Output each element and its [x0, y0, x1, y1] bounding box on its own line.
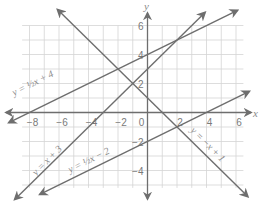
lines — [9, 10, 249, 200]
coordinate-plane-chart: −8−6−4−20246642−2−4 y = ½x + 4 y = x + 3… — [0, 0, 261, 203]
line-y-x-1 — [58, 10, 248, 197]
x-tick-label: −8 — [27, 117, 39, 128]
x-tick-label: −6 — [56, 117, 68, 128]
y-tick-label: 2 — [138, 79, 144, 90]
x-tick-label: −2 — [115, 117, 127, 128]
x-tick-label: 0 — [139, 117, 145, 128]
y-axis-label: y — [143, 0, 149, 12]
equation-label-half-x-plus-4: y = ½x + 4 — [9, 68, 55, 98]
line-y-1-2-x-2 — [40, 91, 249, 194]
x-axis-label: x — [252, 107, 258, 119]
x-tick-label: −4 — [86, 117, 98, 128]
x-tick-label: 6 — [236, 117, 242, 128]
chart-svg: −8−6−4−20246642−2−4 y = ½x + 4 y = x + 3… — [0, 0, 261, 203]
y-tick-label: 6 — [138, 21, 144, 32]
line-y-1-2-x-4 — [9, 10, 238, 122]
x-tick-label: 4 — [207, 117, 213, 128]
grid — [22, 26, 243, 188]
y-tick-label: −4 — [132, 166, 144, 177]
